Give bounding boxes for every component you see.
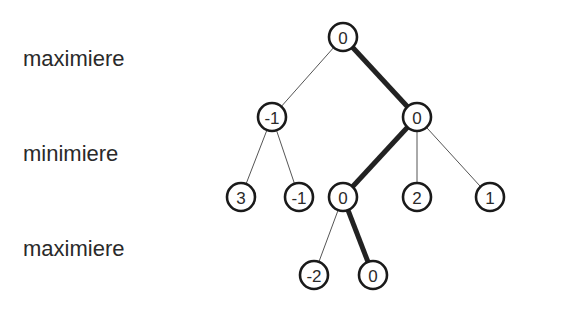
node-value: 0 [368, 267, 377, 286]
tree-node-b: 0 [403, 103, 431, 131]
tree-node-a1: 3 [227, 183, 255, 211]
node-value: 2 [412, 189, 421, 208]
node-value: 3 [236, 189, 245, 208]
tree-node-root: 0 [329, 23, 357, 51]
tree-node-b1b: 0 [359, 261, 387, 289]
minimax-tree: 0-103-1021-20 [0, 0, 565, 311]
tree-node-b1: 0 [329, 183, 357, 211]
node-value: -2 [306, 267, 321, 286]
tree-edge [281, 47, 333, 106]
node-value: -1 [264, 109, 279, 128]
tree-edge [426, 127, 480, 186]
tree-node-b1a: -2 [300, 261, 328, 289]
node-value: 0 [412, 109, 421, 128]
best-path-edge [348, 210, 368, 262]
tree-edge [276, 130, 294, 183]
tree-node-b2: 2 [403, 183, 431, 211]
tree-edge [319, 210, 338, 262]
tree-node-b3: 1 [476, 183, 504, 211]
tree-node-a2: -1 [285, 183, 313, 211]
tree-edges [246, 47, 481, 262]
node-value: 0 [338, 189, 347, 208]
best-path-edge [353, 127, 408, 186]
node-value: 0 [338, 29, 347, 48]
tree-edge [246, 130, 267, 184]
node-value: 1 [485, 189, 494, 208]
best-path-edge [353, 47, 408, 106]
tree-node-a: -1 [258, 103, 286, 131]
node-value: -1 [291, 189, 306, 208]
